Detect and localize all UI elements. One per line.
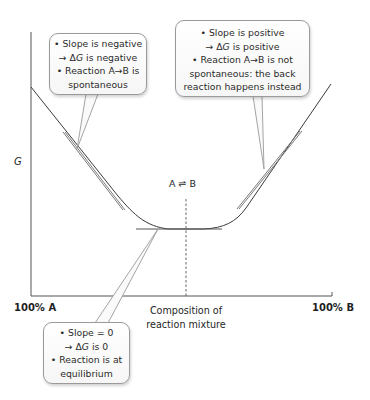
callout-line: Reaction A→B is not xyxy=(180,53,305,67)
g-symbol: G xyxy=(223,41,230,52)
callout-line: Slope is positive xyxy=(180,26,305,40)
callout-line: Slope = 0 xyxy=(48,326,125,340)
x-axis-title-line-2: reaction mixture xyxy=(140,318,232,332)
callout-line: → ΔG is positive xyxy=(180,40,305,54)
tangent-positive-slope xyxy=(237,131,302,209)
callout-text: is positive xyxy=(230,41,280,52)
y-axis-label: G xyxy=(14,156,22,167)
callout-positive-slope: Slope is positive → ΔG is positive React… xyxy=(175,20,310,97)
callout-line: Slope is negative xyxy=(54,37,142,51)
x-axis-right-label: 100% B xyxy=(312,302,354,313)
right-callout-pointer xyxy=(253,96,264,169)
x-axis-title: Composition of reaction mixture xyxy=(140,304,232,332)
gibbs-energy-diagram: G 100% A 100% B Composition of reaction … xyxy=(0,0,370,400)
gibbs-energy-curve xyxy=(31,84,331,229)
callout-text: is negative xyxy=(83,52,137,63)
callout-line: → ΔG is 0 xyxy=(48,340,125,354)
callout-line: Reaction is at xyxy=(48,353,125,367)
callout-line: Reaction A→B is xyxy=(54,64,142,78)
callout-line: → ΔG is negative xyxy=(54,51,142,65)
x-axis-left-label: 100% A xyxy=(14,302,56,313)
delta-prefix: → Δ xyxy=(205,41,222,52)
callout-line: spontaneous xyxy=(54,78,142,92)
callout-line: spontaneous: the back xyxy=(180,67,305,81)
left-callout-pointer xyxy=(77,94,98,149)
callout-line: equilibrium xyxy=(48,367,125,381)
callout-line: reaction happens instead xyxy=(180,80,305,94)
delta-prefix: → Δ xyxy=(59,52,76,63)
callout-negative-slope: Slope is negative → ΔG is negative React… xyxy=(49,33,147,95)
callout-text: is 0 xyxy=(89,341,108,352)
tangent-negative-slope xyxy=(63,132,125,210)
delta-prefix: → Δ xyxy=(65,341,82,352)
g-symbol: G xyxy=(82,341,89,352)
callout-zero-slope: Slope = 0 → ΔG is 0 Reaction is at equil… xyxy=(43,322,130,384)
x-axis-title-line-1: Composition of xyxy=(140,304,232,318)
equilibrium-label: A ⇌ B xyxy=(169,178,196,189)
